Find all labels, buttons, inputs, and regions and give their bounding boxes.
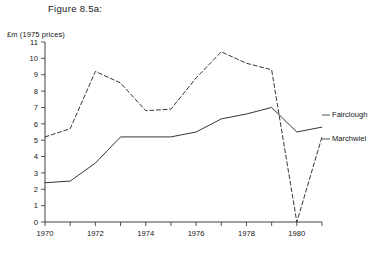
x-tick-label: 1978 [238, 229, 255, 238]
x-tick-label: 1980 [288, 229, 305, 238]
y-tick-label: 3 [34, 169, 38, 178]
series-label-marchwiel: Marchwiel [332, 134, 366, 143]
y-tick-label: 6 [34, 120, 38, 129]
series-label-group: FaircloughMarchwiel [322, 110, 367, 143]
y-tick-label: 8 [34, 87, 38, 96]
x-tick-label: 1974 [137, 229, 154, 238]
series-line-fairclough [45, 107, 322, 182]
y-tick-label: 9 [34, 70, 38, 79]
y-tick-label: 11 [30, 38, 38, 47]
series-label-fairclough: Fairclough [332, 110, 367, 119]
y-axis: 01234567891011 [30, 38, 45, 227]
y-tick-label: 7 [34, 103, 38, 112]
y-tick-label: 10 [30, 54, 38, 63]
line-chart-plot: 01234567891011 197019721974197619781980 … [0, 0, 385, 254]
x-tick-label: 1970 [37, 229, 54, 238]
x-axis: 197019721974197619781980 [37, 222, 322, 238]
y-tick-label: 2 [34, 185, 38, 194]
y-axis-ticks: 01234567891011 [30, 38, 45, 227]
data-series-group [45, 52, 322, 222]
y-tick-label: 5 [34, 136, 38, 145]
x-axis-ticks: 197019721974197619781980 [37, 222, 322, 238]
figure-container: Figure 8.5a: £m (1975 prices) 0123456789… [0, 0, 385, 254]
y-tick-label: 0 [34, 218, 38, 227]
x-tick-label: 1976 [188, 229, 205, 238]
y-tick-label: 1 [34, 201, 38, 210]
y-tick-label: 4 [34, 152, 38, 161]
x-tick-label: 1972 [87, 229, 104, 238]
series-line-marchwiel [45, 52, 322, 222]
